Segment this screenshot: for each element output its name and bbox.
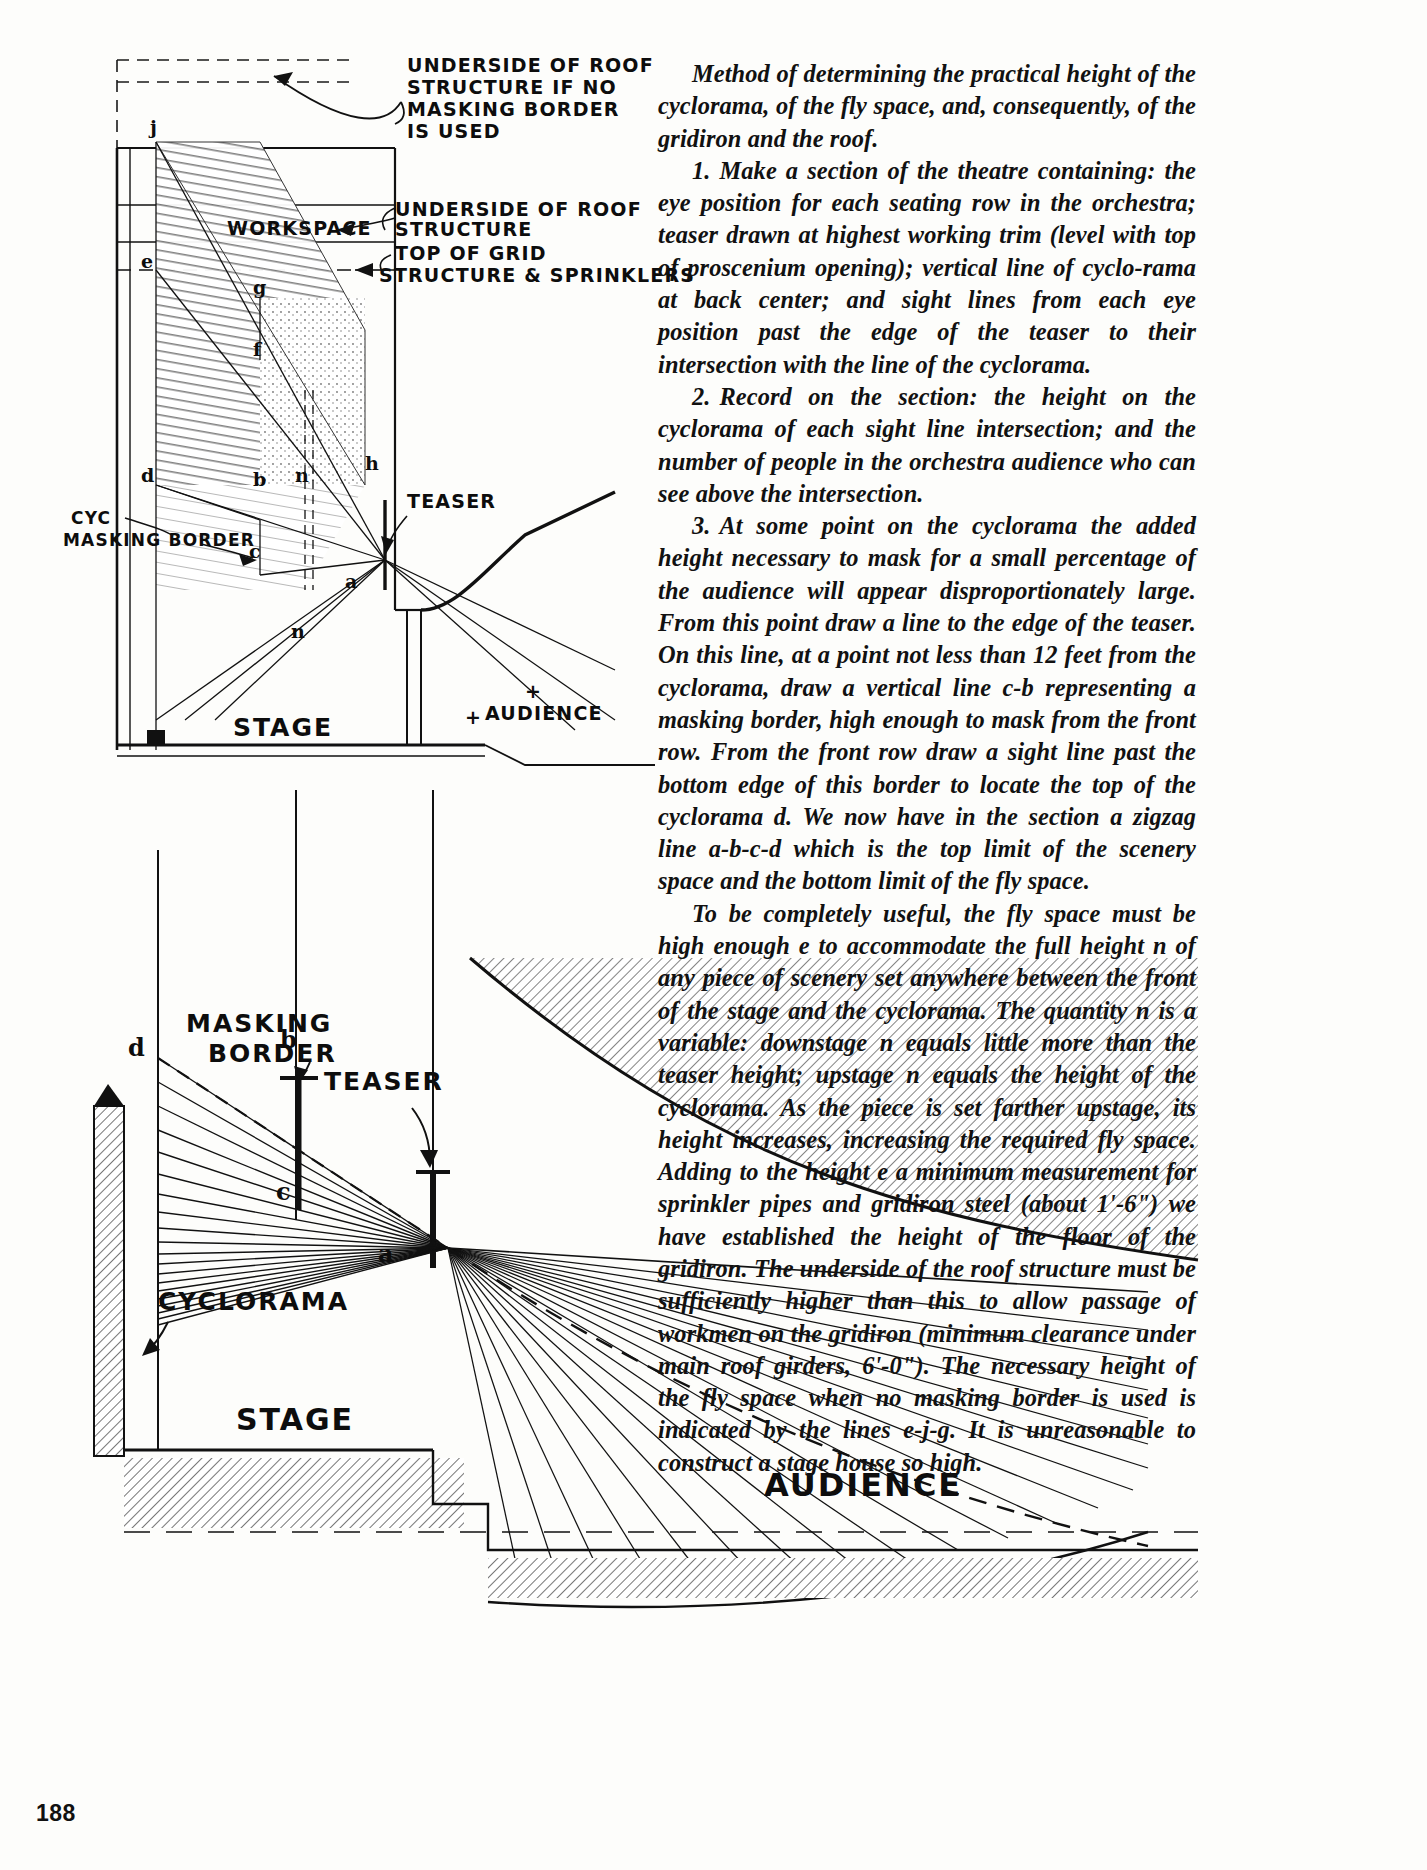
svg-text:e: e <box>141 250 153 272</box>
annotation-workspace: WORKSPACE <box>227 217 395 239</box>
annotation-underside-no-border: UNDERSIDE OF ROOF STRUCTURE IF NO MASKIN… <box>407 54 654 142</box>
leader-underside-no-border <box>274 72 404 124</box>
svg-text:STAGE: STAGE <box>236 1402 354 1437</box>
svg-text:b: b <box>280 1025 297 1054</box>
svg-text:STRUCTURE & SPRINKLERS: STRUCTURE & SPRINKLERS <box>379 264 695 286</box>
step-number-1: 1. <box>692 157 720 184</box>
svg-text:a: a <box>378 1239 394 1268</box>
svg-text:IS USED: IS USED <box>407 120 501 142</box>
svg-text:c: c <box>276 1177 291 1206</box>
svg-text:AUDIENCE: AUDIENCE <box>485 702 603 724</box>
svg-text:+: + <box>465 706 482 728</box>
annotation-teaser: TEASER <box>381 490 496 554</box>
svg-text:+: + <box>525 680 542 702</box>
svg-text:STRUCTURE: STRUCTURE <box>395 218 532 240</box>
svg-text:UNDERSIDE OF ROOF: UNDERSIDE OF ROOF <box>395 198 642 220</box>
svg-text:CYCLORAMA: CYCLORAMA <box>158 1287 349 1316</box>
annotation-masking-border: MASKING BORDER <box>186 1009 337 1083</box>
svg-text:BORDER: BORDER <box>208 1039 337 1068</box>
svg-text:UNDERSIDE OF ROOF: UNDERSIDE OF ROOF <box>407 54 654 76</box>
left-wall-hatched <box>94 1084 124 1456</box>
svg-text:h: h <box>365 452 379 474</box>
step-number-2: 2. <box>692 383 720 410</box>
svg-text:d: d <box>141 464 154 486</box>
svg-text:a: a <box>345 570 357 592</box>
svg-text:n: n <box>295 464 309 486</box>
step-text-1: Make a section of the theatre containing… <box>658 157 1196 378</box>
paragraph-step-3: 3.At some point on the cyclorama the add… <box>658 510 1196 898</box>
page-number: 188 <box>36 1800 76 1827</box>
sightline-fan <box>158 1058 448 1325</box>
svg-text:TEASER: TEASER <box>407 490 496 512</box>
svg-text:g: g <box>253 276 266 298</box>
annotation-stage: STAGE <box>233 713 333 742</box>
paragraph-closing: To be completely useful, the fly space m… <box>658 898 1196 1479</box>
annotation-audience: AUDIENCE + + <box>465 680 603 728</box>
paragraph-step-2: 2.Record on the section: the height on t… <box>658 381 1196 510</box>
annotation-roof-grid-sprinklers: UNDERSIDE OF ROOF STRUCTURE TOP OF GRID … <box>355 198 695 286</box>
svg-text:MASKING BORDER: MASKING BORDER <box>63 530 255 550</box>
svg-text:TOP OF GRID: TOP OF GRID <box>395 242 547 264</box>
svg-text:MASKING BORDER: MASKING BORDER <box>407 98 620 120</box>
annotation-stage-lower: STAGE <box>236 1402 354 1437</box>
svg-text:j: j <box>148 116 157 138</box>
svg-text:c: c <box>249 540 261 562</box>
step-number-3: 3. <box>692 512 720 539</box>
svg-text:CYC: CYC <box>71 508 111 528</box>
figure-upper-section-diagram: UNDERSIDE OF ROOF STRUCTURE IF NO MASKIN… <box>55 30 655 790</box>
svg-text:d: d <box>128 1033 145 1062</box>
body-text-column: Method of determining the practical heig… <box>658 58 1196 1479</box>
step-text-2: Record on the section: the height on the… <box>658 383 1196 507</box>
svg-text:STAGE: STAGE <box>233 713 333 742</box>
svg-text:b: b <box>253 468 266 490</box>
svg-text:MASKING: MASKING <box>186 1009 332 1038</box>
stage-structure <box>158 790 433 1450</box>
svg-text:n: n <box>291 620 305 642</box>
svg-text:STRUCTURE IF NO: STRUCTURE IF NO <box>407 76 617 98</box>
page-canvas: UNDERSIDE OF ROOF STRUCTURE IF NO MASKIN… <box>0 0 1427 1870</box>
paragraph-intro: Method of determining the practical heig… <box>658 58 1196 155</box>
annotation-teaser-lower: TEASER <box>324 1067 444 1168</box>
paragraph-step-1: 1.Make a section of the theatre containi… <box>658 155 1196 381</box>
stage-floor <box>117 730 655 765</box>
step-text-3: At some point on the cyclorama the added… <box>658 512 1196 894</box>
svg-text:TEASER: TEASER <box>324 1067 444 1096</box>
